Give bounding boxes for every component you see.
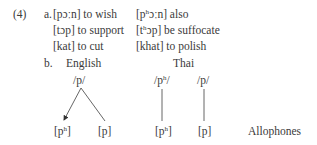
english-branch-left-arrow bbox=[64, 88, 81, 120]
english-branch-right-line bbox=[81, 88, 105, 121]
allophone-tree-lines bbox=[0, 0, 317, 145]
thai-allophone-aspirated: [ph] bbox=[155, 125, 172, 138]
thai-allophone-plain: [p] bbox=[198, 125, 211, 138]
allophones-row-label: Allophones bbox=[248, 125, 301, 138]
english-allophone-plain: [p] bbox=[98, 125, 111, 138]
english-allophone-aspirated: [ph] bbox=[54, 125, 71, 138]
